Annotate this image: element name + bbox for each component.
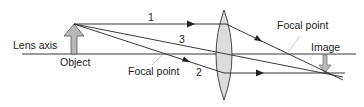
object-arrow-icon (64, 24, 84, 54)
ray-1-label: 1 (148, 11, 154, 23)
ray-2-label: 2 (196, 66, 202, 78)
ray-2-arrowhead-icon (182, 57, 190, 63)
focal-point-left-label: Focal point (128, 65, 179, 77)
focal-point-left-leader (152, 55, 162, 65)
focal-point-right-leader (288, 36, 300, 52)
ray-3-label: 3 (179, 33, 185, 45)
object-label: Object (60, 56, 90, 68)
ray-3 (74, 24, 343, 77)
image-label: Image (311, 41, 340, 53)
lens-axis-label: Lens axis (13, 39, 57, 51)
image-arrow-icon (319, 55, 331, 73)
lens-ray-diagram: Lens axis Object Focal point Focal point… (0, 0, 364, 107)
ray-2-exit-arrowhead-icon (256, 70, 264, 77)
focal-point-right-label: Focal point (277, 19, 328, 31)
ray-1-arrowhead-icon (187, 21, 195, 28)
ray-1-exit-arrowhead-icon (254, 35, 262, 42)
